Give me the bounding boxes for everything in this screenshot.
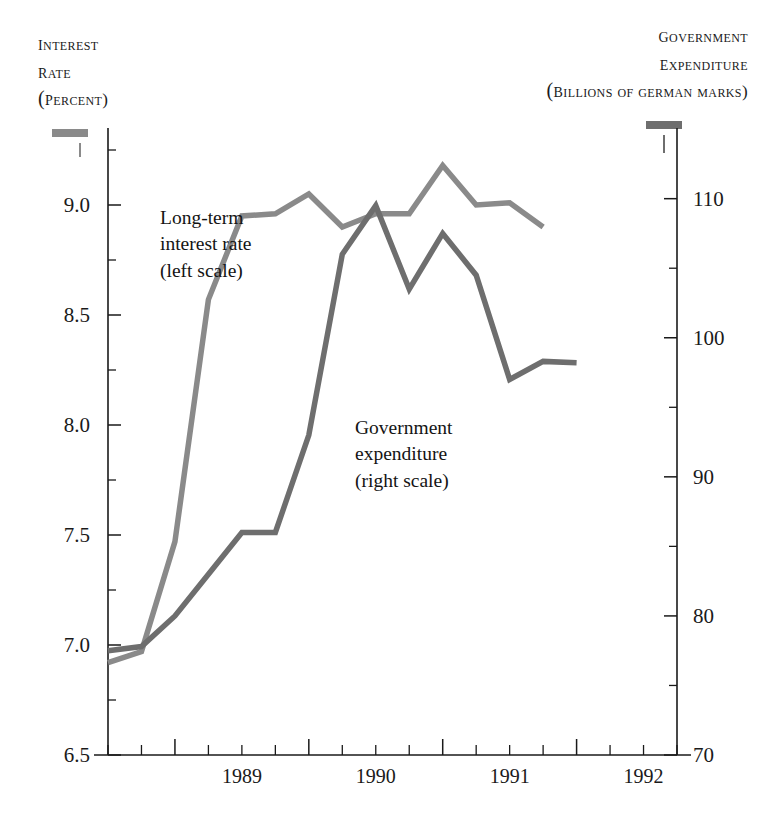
x-axis-tick-label: 1989 — [222, 765, 262, 787]
right-axis-tick-label: 80 — [693, 604, 714, 628]
interest-annot-line1: Long-term — [160, 205, 252, 231]
x-axis-tick-label: 1990 — [356, 765, 396, 787]
right-axis-tick-label: 110 — [693, 187, 724, 211]
left-axis-tick-label: 7.5 — [64, 523, 90, 547]
x-axis-tick-label: 1992 — [624, 765, 664, 787]
right-axis-tick-label: 100 — [693, 326, 725, 350]
expenditure-annotation: Government expenditure (right scale) — [355, 415, 452, 494]
right-axis-tick-label: 70 — [693, 743, 714, 767]
right-axis-tick-label: 90 — [693, 465, 714, 489]
expenditure-annot-line1: Government — [355, 415, 452, 441]
left-axis-tick-label: 8.5 — [64, 303, 90, 327]
left-axis-tick-label: 8.0 — [64, 413, 90, 437]
interest-rate-annotation: Long-term interest rate (left scale) — [160, 205, 252, 284]
interest-annot-line3: (left scale) — [160, 258, 252, 284]
left-axis-tick-label: 7.0 — [64, 633, 90, 657]
expenditure-annot-line2: expenditure — [355, 441, 452, 467]
left-axis-tick-label: 6.5 — [64, 743, 90, 767]
x-axis-tick-label: 1991 — [490, 765, 530, 787]
left-axis-tick-label: 9.0 — [64, 193, 90, 217]
interest-annot-line2: interest rate — [160, 231, 252, 257]
chart-figure: Interest Rate (Percent) Government Expen… — [0, 0, 768, 832]
expenditure-annot-line3: (right scale) — [355, 468, 452, 494]
